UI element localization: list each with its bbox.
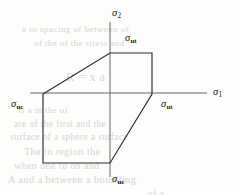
sigma-uc-bottom-subscript: uc	[117, 178, 124, 186]
sigma-1-subscript: 1	[218, 91, 222, 99]
stress-space-plot	[0, 0, 237, 195]
sigma-uc-bottom-label: σuc	[112, 174, 124, 186]
sigma-ut-top-subscript: ut	[130, 37, 136, 45]
figure-container: a to spacing of between ofof the of the …	[0, 0, 237, 195]
sigma-2-axis-label: σ2	[112, 8, 121, 20]
sigma-1-axis-label: σ1	[213, 87, 222, 99]
sigma-uc-left-subscript: uc	[16, 103, 23, 111]
failure-envelope-polygon	[43, 53, 152, 163]
sigma-ut-right-label: σut	[161, 99, 173, 111]
sigma-ut-right-subscript: ut	[166, 103, 172, 111]
sigma-ut-top-label: σut	[125, 33, 137, 45]
sigma-uc-left-label: σuc	[11, 99, 23, 111]
sigma-2-subscript: 2	[117, 12, 121, 20]
